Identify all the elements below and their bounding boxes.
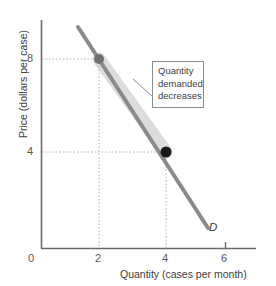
data-point-gray: [94, 54, 104, 64]
chart-plot-area: [0, 0, 276, 286]
annotation-callout-box: Quantity demanded decreases: [152, 61, 204, 108]
data-point-black: [161, 147, 172, 158]
x-axis-tick-label-0: 0: [28, 252, 34, 264]
annotation-line-2: demanded: [158, 78, 199, 91]
y-axis-title: Price (dollars per case): [17, 9, 29, 159]
demand-curve-label: D: [209, 221, 217, 233]
guide-lines: [42, 59, 166, 248]
annotation-leader-line: [133, 79, 152, 96]
demand-curve-figure: 8 4 0 2 4 6 Price (dollars per case) Qua…: [0, 0, 276, 286]
x-axis-tick-label-4: 4: [162, 252, 168, 264]
x-axis-title: Quantity (cases per month): [120, 268, 247, 280]
annotation-line-1: Quantity: [158, 65, 199, 78]
x-axis-tick-label-6: 6: [221, 252, 227, 264]
annotation-line-3: decreases: [158, 90, 199, 103]
x-axis-tick-label-2: 2: [95, 252, 101, 264]
